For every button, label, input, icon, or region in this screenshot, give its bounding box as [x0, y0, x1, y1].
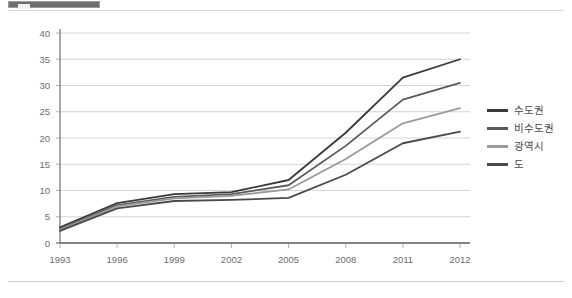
y-tick-label: 15 [39, 159, 50, 170]
legend-label: 도 [514, 158, 524, 170]
header-divider [8, 10, 564, 11]
data-series-group [60, 59, 460, 231]
y-tick-label: 0 [45, 238, 50, 249]
x-tick-label: 2008 [335, 254, 356, 265]
page-root: 0510152025303540 19931996199920022005200… [0, 0, 572, 298]
series-line-비수도권 [60, 83, 460, 229]
x-tick-label: 1996 [107, 254, 128, 265]
chart-legend: 수도권비수도권광역시도 [487, 101, 567, 173]
y-tick-labels: 0510152025303540 [39, 28, 60, 249]
top-highlight-bar-notch [18, 4, 30, 9]
gridlines [60, 33, 470, 243]
legend-swatch-icon [487, 145, 508, 148]
x-tick-label: 2002 [221, 254, 242, 265]
legend-swatch-icon [487, 127, 508, 130]
series-line-도 [60, 132, 460, 231]
legend-swatch-icon [487, 109, 508, 112]
legend-swatch-icon [487, 163, 508, 166]
legend-item[interactable]: 광역시 [487, 137, 567, 155]
x-axis [56, 243, 470, 248]
y-tick-label: 20 [39, 133, 50, 144]
y-tick-label: 40 [39, 28, 50, 39]
top-highlight-bar [8, 1, 100, 8]
legend-item[interactable]: 비수도권 [487, 119, 567, 137]
y-tick-label: 10 [39, 185, 50, 196]
y-tick-label: 30 [39, 80, 50, 91]
legend-item[interactable]: 도 [487, 155, 567, 173]
legend-label: 수도권 [514, 104, 544, 116]
y-tick-label: 5 [45, 211, 50, 222]
y-tick-label: 25 [39, 106, 50, 117]
footer-divider [8, 281, 564, 282]
x-tick-label: 1999 [164, 254, 185, 265]
x-tick-label: 1993 [49, 254, 70, 265]
legend-label: 광역시 [514, 140, 544, 152]
x-tick-label: 2005 [278, 254, 299, 265]
x-tick-labels: 19931996199920022005200820112012 [49, 254, 470, 265]
series-line-수도권 [60, 59, 460, 227]
x-tick-label: 2011 [393, 254, 413, 265]
y-tick-label: 35 [39, 54, 50, 65]
series-line-광역시 [60, 108, 460, 230]
legend-item[interactable]: 수도권 [487, 101, 567, 119]
x-tick-label: 2012 [449, 254, 470, 265]
legend-label: 비수도권 [514, 122, 554, 134]
